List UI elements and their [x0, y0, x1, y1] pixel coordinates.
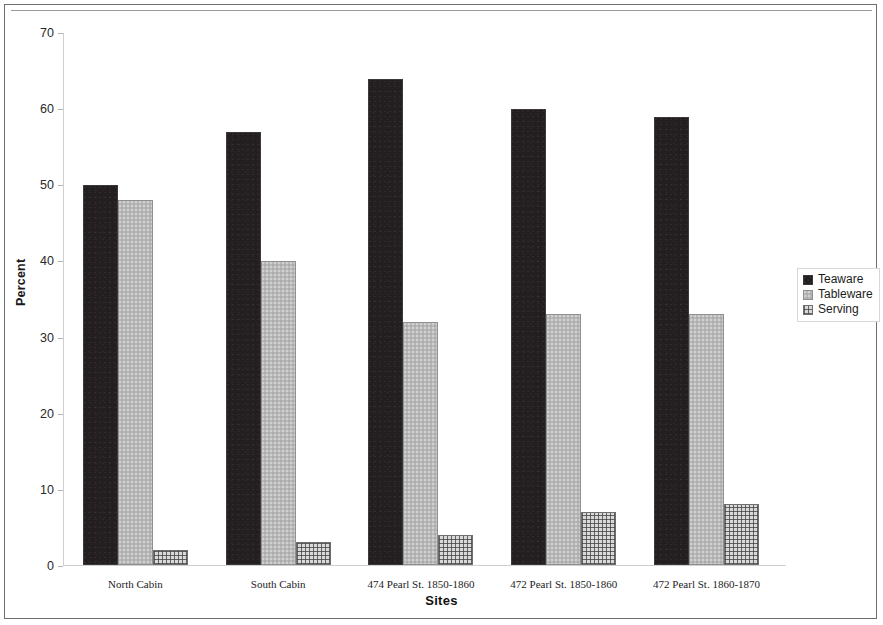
- bar-teaware[interactable]: [654, 117, 689, 565]
- bar-serving[interactable]: [296, 542, 331, 565]
- legend-label: Tableware: [818, 288, 873, 301]
- bar-teaware[interactable]: [511, 109, 546, 565]
- x-axis-title: Sites: [0, 593, 883, 608]
- chart-page: Percent 010203040506070 North CabinSouth…: [0, 0, 883, 625]
- legend-item-tableware[interactable]: Tableware: [803, 288, 873, 301]
- bar-group: 474 Pearl St. 1850-1860: [350, 33, 493, 565]
- bar-group: North Cabin: [64, 33, 207, 565]
- y-tick-label: 60: [40, 102, 54, 116]
- bar-serving[interactable]: [438, 535, 473, 565]
- bar-teaware[interactable]: [368, 79, 403, 565]
- x-tick-label: South Cabin: [251, 578, 306, 590]
- legend-item-teaware[interactable]: Teaware: [803, 273, 873, 286]
- legend-label: Teaware: [818, 273, 863, 286]
- x-tick-label: 472 Pearl St. 1860-1870: [653, 578, 760, 590]
- plot-area: 010203040506070 North CabinSouth Cabin47…: [63, 33, 778, 566]
- y-tick-mark: [58, 185, 63, 186]
- y-tick-label: 70: [40, 26, 54, 40]
- chart-legend: TeawareTablewareServing: [797, 268, 880, 322]
- y-axis-title: Percent: [14, 259, 28, 306]
- legend-swatch-icon: [803, 290, 813, 300]
- x-tick-label: 474 Pearl St. 1850-1860: [368, 578, 475, 590]
- y-tick-label: 10: [40, 483, 54, 497]
- x-axis-line: [63, 565, 786, 566]
- bar-teaware[interactable]: [83, 185, 118, 565]
- y-tick-mark: [58, 338, 63, 339]
- y-tick-mark: [58, 490, 63, 491]
- bar-group: South Cabin: [207, 33, 350, 565]
- y-tick-label: 50: [40, 178, 54, 192]
- legend-item-serving[interactable]: Serving: [803, 303, 873, 316]
- y-tick-label: 0: [47, 559, 54, 573]
- bar-groups: North CabinSouth Cabin474 Pearl St. 1850…: [64, 33, 778, 565]
- bar-tableware[interactable]: [403, 322, 438, 565]
- y-tick-mark: [58, 109, 63, 110]
- bar-tableware[interactable]: [118, 200, 153, 565]
- y-tick-mark: [58, 261, 63, 262]
- y-tick-mark: [58, 566, 63, 567]
- y-tick-mark: [58, 414, 63, 415]
- y-tick-mark: [58, 33, 63, 34]
- y-tick-label: 30: [40, 331, 54, 345]
- legend-swatch-icon: [803, 305, 813, 315]
- legend-label: Serving: [818, 303, 859, 316]
- y-tick-label: 20: [40, 407, 54, 421]
- x-tick-label: North Cabin: [108, 578, 163, 590]
- legend-swatch-icon: [803, 275, 813, 285]
- bar-group: 472 Pearl St. 1860-1870: [635, 33, 778, 565]
- y-tick-label: 40: [40, 254, 54, 268]
- bar-serving[interactable]: [153, 550, 188, 565]
- x-tick-label: 472 Pearl St. 1850-1860: [510, 578, 617, 590]
- bar-group: 472 Pearl St. 1850-1860: [492, 33, 635, 565]
- bar-serving[interactable]: [724, 504, 759, 565]
- bar-tableware[interactable]: [689, 314, 724, 565]
- bar-tableware[interactable]: [261, 261, 296, 565]
- bar-teaware[interactable]: [226, 132, 261, 565]
- bar-tableware[interactable]: [546, 314, 581, 565]
- bar-serving[interactable]: [581, 512, 616, 565]
